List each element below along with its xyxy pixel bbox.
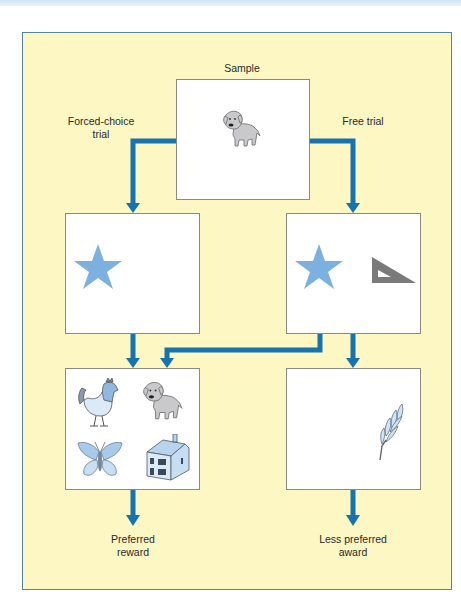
- flow-arrows: [0, 0, 461, 616]
- wheat-icon: [370, 402, 406, 462]
- dog-icon: [142, 380, 186, 422]
- house-icon: [145, 434, 191, 484]
- star-icon: [294, 243, 344, 290]
- rooster-icon: [74, 378, 124, 430]
- dog-icon: [222, 109, 264, 149]
- forced-choice-label: Forced-choice trial: [56, 115, 146, 141]
- butterfly-icon: [76, 440, 124, 480]
- less-preferred-label: Less preferred award: [303, 533, 403, 559]
- free-trial-label: Free trial: [328, 115, 398, 128]
- set-square-icon: [371, 256, 417, 284]
- star-icon: [73, 243, 123, 290]
- preferred-reward-label: Preferred reward: [93, 533, 173, 559]
- sample-label: Sample: [212, 62, 272, 75]
